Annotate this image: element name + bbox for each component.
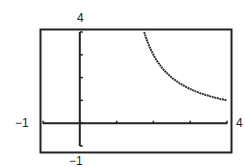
- calculator-graph: [0, 0, 245, 167]
- xmax-label: 4: [236, 117, 243, 129]
- xmin-label: −1: [15, 117, 29, 129]
- function-curve: [144, 32, 227, 100]
- axes: [43, 32, 227, 146]
- ymin-label: −1: [69, 155, 83, 167]
- viewing-window-frame: [41, 30, 232, 153]
- ymax-label: 4: [77, 12, 84, 24]
- axis-ticks: [43, 32, 227, 146]
